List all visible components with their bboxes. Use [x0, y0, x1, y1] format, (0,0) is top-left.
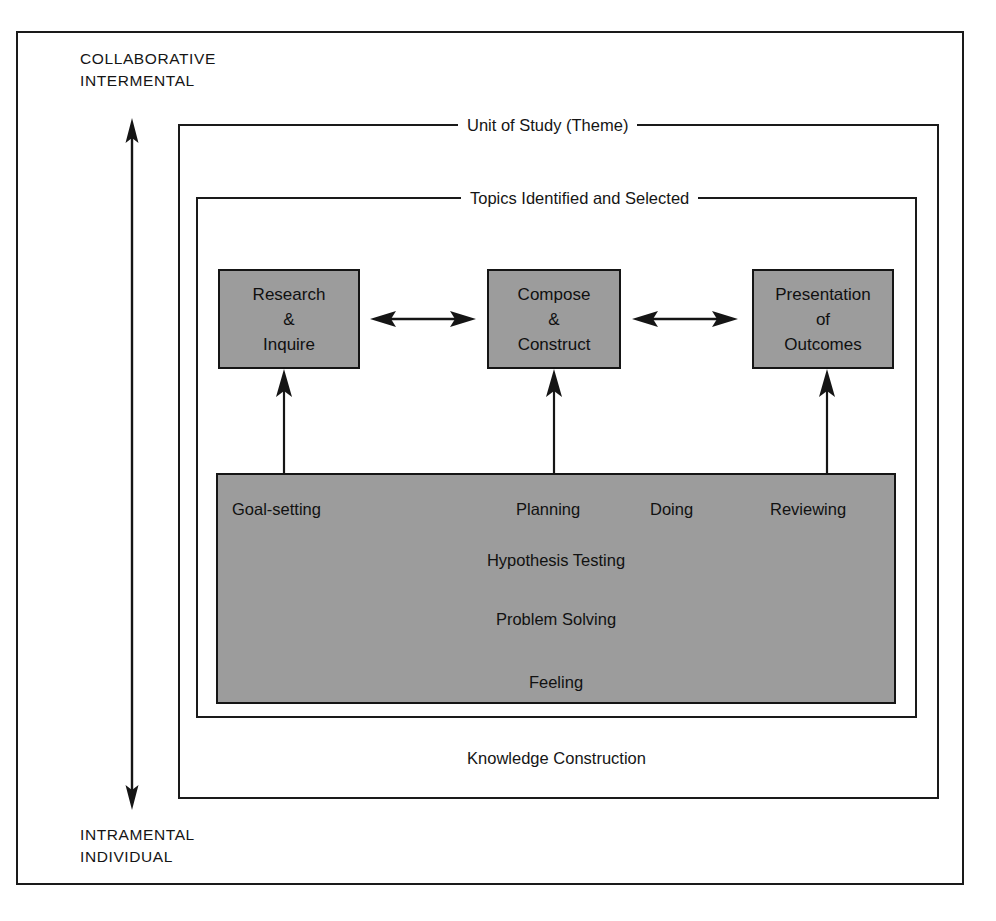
process-label-hypothesis-testing: Hypothesis Testing [218, 549, 894, 571]
double-headed-horizontal-arrow-icon [370, 306, 476, 332]
process-label-reviewing: Reviewing [770, 497, 846, 521]
process-label-planning: Planning [516, 497, 580, 521]
stage-box-compose-line-1: Compose [518, 282, 591, 307]
stage-box-presentation-line-1: Presentation [775, 282, 870, 307]
diagram-canvas: COLLABORATIVE INTERMENTAL INTRAMENTAL IN… [0, 0, 996, 921]
double-headed-horizontal-arrow-icon [632, 306, 738, 332]
stage-box-research-line-1: Research [253, 282, 326, 307]
process-panel-top-row: Goal-setting Planning Doing Reviewing [218, 497, 894, 521]
process-panel: Goal-setting Planning Doing Reviewing Hy… [216, 473, 896, 704]
process-label-doing: Doing [650, 497, 693, 521]
stage-box-research-line-3: Inquire [263, 332, 315, 357]
frame-unit-of-study-caption: Unit of Study (Theme) [458, 115, 637, 135]
process-label-goal-setting: Goal-setting [232, 497, 321, 521]
stage-box-research-inquire: Research & Inquire [218, 269, 360, 369]
process-label-feeling: Feeling [218, 671, 894, 693]
stage-box-compose-line-3: Construct [518, 332, 591, 357]
stage-box-presentation-line-3: Outcomes [784, 332, 861, 357]
frame-topics-identified-caption: Topics Identified and Selected [461, 188, 698, 208]
axis-top-label: COLLABORATIVE INTERMENTAL [80, 48, 216, 93]
up-arrow-icon [271, 369, 297, 475]
process-label-problem-solving: Problem Solving [218, 608, 894, 630]
stage-box-compose-line-2: & [548, 307, 559, 332]
stage-box-presentation-of-outcomes: Presentation of Outcomes [752, 269, 894, 369]
double-headed-vertical-arrow-icon [110, 118, 154, 810]
up-arrow-icon [541, 369, 567, 475]
axis-bottom-label: INTRAMENTAL INDIVIDUAL [80, 824, 195, 869]
up-arrow-icon [814, 369, 840, 475]
stage-box-research-line-2: & [283, 307, 294, 332]
stage-box-compose-construct: Compose & Construct [487, 269, 621, 369]
stage-box-presentation-line-2: of [816, 307, 830, 332]
knowledge-construction-label: Knowledge Construction [196, 749, 917, 768]
